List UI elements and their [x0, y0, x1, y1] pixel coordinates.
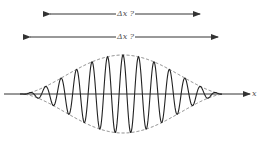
x-axis-label: x — [251, 89, 258, 98]
delta-x-label-1: Δx ? — [116, 9, 135, 18]
envelope-bottom — [20, 94, 222, 133]
envelope-top — [20, 55, 222, 94]
delta-x-label-2: Δx ? — [116, 32, 135, 41]
wave-packet-diagram — [0, 0, 261, 157]
